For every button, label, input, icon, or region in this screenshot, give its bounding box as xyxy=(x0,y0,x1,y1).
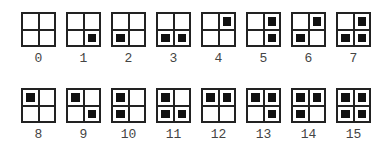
quadrant-bottom-left xyxy=(293,106,309,122)
quadrant-top-left xyxy=(248,90,264,106)
quadrant-bottom-right xyxy=(174,30,190,46)
quadrant-bottom-left xyxy=(248,106,264,122)
quadrant-bottom-right xyxy=(219,30,235,46)
quadrant-top-left xyxy=(23,90,39,106)
grid-label: 2 xyxy=(107,52,150,66)
quadrant-bottom-left xyxy=(338,106,354,122)
quadrant-top-right xyxy=(39,14,55,30)
grid-item-1: 1 xyxy=(62,12,102,72)
quadrant-bottom-left xyxy=(113,106,129,122)
grid-icon xyxy=(21,12,56,47)
grid-item-13: 13 xyxy=(242,88,282,148)
grid-icon xyxy=(336,12,371,47)
grid-icon xyxy=(111,12,146,47)
grid-label: 4 xyxy=(197,52,240,66)
quadrant-top-left xyxy=(68,90,84,106)
quadrant-top-right xyxy=(219,90,235,106)
grid-icon xyxy=(111,88,146,123)
quadrant-top-left xyxy=(113,90,129,106)
quadrant-bottom-left xyxy=(113,30,129,46)
grid-icon xyxy=(201,12,236,47)
quadrant-top-left xyxy=(293,90,309,106)
grid-icon xyxy=(66,88,101,123)
quadrant-top-right xyxy=(309,90,325,106)
quadrant-bottom-right xyxy=(264,30,280,46)
quadrant-bottom-right xyxy=(39,106,55,122)
quadrant-bottom-right xyxy=(354,106,370,122)
quadrant-top-left xyxy=(338,14,354,30)
quadrant-top-right xyxy=(309,14,325,30)
quadrant-top-right xyxy=(84,90,100,106)
quadrant-bottom-left xyxy=(203,30,219,46)
quadrant-bottom-right xyxy=(174,106,190,122)
quadrant-bottom-right xyxy=(309,106,325,122)
grid-label: 13 xyxy=(242,128,285,142)
quadrant-top-right xyxy=(174,14,190,30)
quadrant-bottom-right xyxy=(84,106,100,122)
grid-label: 11 xyxy=(152,128,195,142)
quadrant-top-right xyxy=(129,14,145,30)
quadrant-top-left xyxy=(23,14,39,30)
quadrant-bottom-left xyxy=(158,30,174,46)
grid-label: 10 xyxy=(107,128,150,142)
quadrant-bottom-left xyxy=(23,106,39,122)
grid-icon xyxy=(156,12,191,47)
grid-item-7: 7 xyxy=(332,12,372,72)
grid-icon xyxy=(156,88,191,123)
quadrant-bottom-right xyxy=(264,106,280,122)
quadrant-top-right xyxy=(264,90,280,106)
quadrant-top-left xyxy=(293,14,309,30)
grid-item-9: 9 xyxy=(62,88,102,148)
quadrant-bottom-left xyxy=(203,106,219,122)
grid-item-0: 0 xyxy=(17,12,57,72)
grid-icon xyxy=(291,88,326,123)
grid-label: 3 xyxy=(152,52,195,66)
quadrant-top-right xyxy=(39,90,55,106)
grid-icon xyxy=(21,88,56,123)
grid-icon xyxy=(66,12,101,47)
quadrant-bottom-right xyxy=(129,106,145,122)
quadrant-top-left xyxy=(158,90,174,106)
grid-label: 14 xyxy=(287,128,330,142)
grid-label: 1 xyxy=(62,52,105,66)
quadrant-bottom-right xyxy=(219,106,235,122)
grid-item-14: 14 xyxy=(287,88,327,148)
grid-label: 9 xyxy=(62,128,105,142)
grid-label: 5 xyxy=(242,52,285,66)
quadrant-top-left xyxy=(113,14,129,30)
grid-icon xyxy=(336,88,371,123)
quadrant-bottom-right xyxy=(354,30,370,46)
grid-label: 6 xyxy=(287,52,330,66)
quadrant-top-left xyxy=(203,90,219,106)
quadrant-bottom-left xyxy=(158,106,174,122)
quadrant-top-right xyxy=(129,90,145,106)
quadrant-bottom-left xyxy=(68,30,84,46)
quadrant-top-left xyxy=(248,14,264,30)
quadrant-top-right xyxy=(354,90,370,106)
quadrant-top-right xyxy=(354,14,370,30)
quadrant-top-left xyxy=(68,14,84,30)
quadrant-top-right xyxy=(264,14,280,30)
grid-icon xyxy=(246,88,281,123)
grid-icon xyxy=(246,12,281,47)
grid-item-5: 5 xyxy=(242,12,282,72)
grid-item-3: 3 xyxy=(152,12,192,72)
quadrant-top-left xyxy=(338,90,354,106)
quadrant-bottom-right xyxy=(129,30,145,46)
quadrant-bottom-left xyxy=(248,30,264,46)
quadrant-bottom-right xyxy=(84,30,100,46)
grid-item-8: 8 xyxy=(17,88,57,148)
grid-label: 12 xyxy=(197,128,240,142)
quadrant-bottom-left xyxy=(293,30,309,46)
quadrant-top-right xyxy=(174,90,190,106)
grid-item-10: 10 xyxy=(107,88,147,148)
grid-label: 15 xyxy=(332,128,375,142)
grid-item-6: 6 xyxy=(287,12,327,72)
binary-grid-diagram: 0 1 2 3 xyxy=(0,0,390,152)
quadrant-bottom-right xyxy=(309,30,325,46)
grid-label: 8 xyxy=(17,128,60,142)
quadrant-bottom-right xyxy=(39,30,55,46)
grid-item-4: 4 xyxy=(197,12,237,72)
quadrant-bottom-left xyxy=(23,30,39,46)
quadrant-bottom-left xyxy=(338,30,354,46)
